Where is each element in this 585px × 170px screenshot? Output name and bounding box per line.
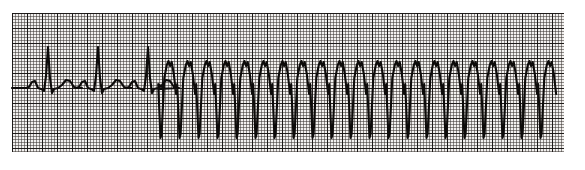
ecg-rhythm-strip — [0, 0, 585, 170]
ecg-bold-grid — [12, 13, 564, 152]
ecg-graph-paper — [12, 13, 564, 152]
